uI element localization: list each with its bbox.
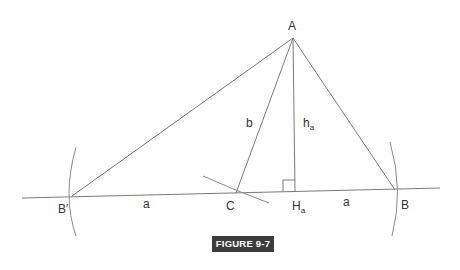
label-segment-ha: ha — [303, 116, 315, 132]
base-line — [22, 188, 440, 198]
label-point-bprime: B′ — [58, 202, 69, 216]
triangle-construction-diagram: A B′ C Ha B b ha a a — [0, 0, 460, 270]
altitude-ha — [293, 38, 295, 191]
right-angle-marker — [283, 180, 295, 192]
segment-a-bprime — [72, 38, 293, 196]
label-point-b: B — [401, 198, 409, 212]
label-segment-b: b — [246, 116, 253, 130]
arc-through-c — [203, 176, 269, 203]
label-point-ha: Ha — [292, 199, 306, 215]
label-segment-a-left: a — [143, 197, 150, 211]
segment-a-b — [293, 38, 395, 190]
label-point-c: C — [226, 199, 235, 213]
label-point-a: A — [288, 19, 296, 33]
segment-a-c — [236, 38, 293, 193]
arc-at-bprime — [69, 147, 76, 236]
figure-caption: FIGURE 9-7 — [212, 236, 274, 252]
label-segment-a-right: a — [343, 195, 350, 209]
